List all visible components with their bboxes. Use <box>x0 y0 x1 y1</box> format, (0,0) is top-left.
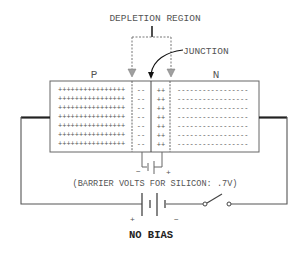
svg-text:-----------------: ----------------- <box>177 86 248 94</box>
svg-text:--: -- <box>137 140 145 148</box>
junction-label: JUNCTION <box>183 46 229 57</box>
depletion-negative-ions: -- -- -- -- -- -- -- <box>137 86 145 148</box>
source-plus-sign: + <box>130 215 135 224</box>
svg-text:++++++++++++++++: ++++++++++++++++ <box>58 122 125 130</box>
depletion-positive-ions: ++ ++ ++ ++ ++ ++ ++ <box>157 87 165 149</box>
svg-text:++++++++++++++++: ++++++++++++++++ <box>58 131 125 139</box>
svg-text:--: -- <box>137 131 145 139</box>
svg-text:--: -- <box>137 122 145 130</box>
n-side-label: N <box>213 69 220 81</box>
svg-text:++++++++++++++++: ++++++++++++++++ <box>58 95 125 103</box>
svg-text:-----------------: ----------------- <box>177 104 248 112</box>
p-region-charges: ++++++++++++++++ ++++++++++++++++ ++++++… <box>58 86 125 148</box>
svg-text:++++++++++++++++: ++++++++++++++++ <box>58 113 125 121</box>
depletion-region-label: DEPLETION REGION <box>109 13 200 24</box>
svg-text:++: ++ <box>157 96 165 104</box>
open-switch-icon <box>203 194 231 206</box>
right-depletion-arrow-icon <box>167 69 175 77</box>
svg-text:--: -- <box>137 95 145 103</box>
pn-junction-diagram: DEPLETION REGION JUNCTION P N ++++++++++… <box>0 0 304 265</box>
svg-text:++++++++++++++++: ++++++++++++++++ <box>58 140 125 148</box>
svg-text:++: ++ <box>157 87 165 95</box>
svg-text:++++++++++++++++: ++++++++++++++++ <box>58 86 125 94</box>
left-depletion-arrow-icon <box>128 69 136 77</box>
diagram-title: NO BIAS <box>129 229 173 241</box>
svg-text:-----------------: ----------------- <box>177 95 248 103</box>
svg-text:--: -- <box>137 104 145 112</box>
junction-arrowhead-icon <box>148 72 154 79</box>
barrier-plus-sign: + <box>166 168 171 177</box>
svg-text:-----------------: ----------------- <box>177 113 248 121</box>
source-minus-sign: − <box>174 215 179 224</box>
n-region-charges: ----------------- ----------------- ----… <box>177 86 248 148</box>
svg-text:++: ++ <box>157 132 165 140</box>
svg-text:++: ++ <box>157 123 165 131</box>
svg-text:-----------------: ----------------- <box>177 122 248 130</box>
barrier-minus-sign: − <box>136 167 141 176</box>
svg-text:-----------------: ----------------- <box>177 140 248 148</box>
svg-text:++: ++ <box>157 105 165 113</box>
barrier-voltage-note: (BARRIER VOLTS FOR SILICON: .7V) <box>72 179 237 189</box>
svg-text:++++++++++++++++: ++++++++++++++++ <box>58 104 125 112</box>
barrier-battery-icon <box>142 152 162 174</box>
svg-text:--: -- <box>137 113 145 121</box>
svg-text:++: ++ <box>157 141 165 149</box>
source-battery-icon <box>142 193 165 216</box>
depletion-region-bracket <box>128 26 175 77</box>
svg-text:--: -- <box>137 86 145 94</box>
junction-arrow-icon <box>151 50 183 74</box>
svg-text:-----------------: ----------------- <box>177 131 248 139</box>
p-side-label: P <box>91 69 98 81</box>
svg-text:++: ++ <box>157 114 165 122</box>
